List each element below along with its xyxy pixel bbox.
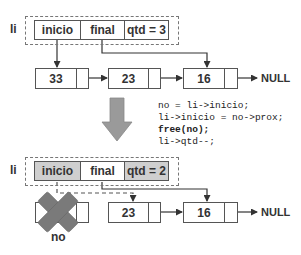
node-value-after-1: 16 bbox=[183, 202, 225, 223]
field-qtd-before: qtd = 3 bbox=[124, 20, 169, 40]
node-pointer-before-0 bbox=[77, 68, 89, 89]
code-block: no = li->inicio; li->inicio = no->prox; … bbox=[158, 100, 283, 148]
code-line-3: free(no); bbox=[158, 124, 209, 135]
transition-down-arrow-icon bbox=[102, 98, 132, 141]
field-final-before: final bbox=[80, 20, 125, 40]
code-line-4: li->qtd--; bbox=[158, 136, 215, 147]
field-final-after: final bbox=[80, 161, 125, 181]
list-label-after: li bbox=[10, 163, 17, 177]
list-label-before: li bbox=[10, 22, 17, 36]
removed-node-label: no bbox=[51, 230, 66, 244]
node-pointer-before-1 bbox=[149, 68, 161, 89]
node-value-before-1: 23 bbox=[108, 68, 149, 89]
code-line-1: no = li->inicio; bbox=[158, 100, 249, 111]
node-pointer-before-2 bbox=[225, 68, 238, 89]
node-value-before-2: 16 bbox=[183, 68, 225, 89]
node-value-after-0: 23 bbox=[108, 202, 149, 223]
null-terminator-before: NULL bbox=[261, 72, 290, 84]
removed-node-pointer bbox=[77, 202, 89, 223]
null-terminator-after: NULL bbox=[261, 206, 290, 218]
node-pointer-after-0 bbox=[149, 202, 161, 223]
field-qtd-after: qtd = 2 bbox=[124, 161, 169, 181]
code-line-2: li->inicio = no->prox; bbox=[158, 112, 283, 123]
node-pointer-after-1 bbox=[225, 202, 238, 223]
field-inicio-before: inicio bbox=[34, 20, 81, 40]
node-value-before-0: 33 bbox=[35, 68, 77, 89]
field-inicio-after: inicio bbox=[34, 161, 81, 181]
removed-node-value bbox=[35, 202, 77, 223]
